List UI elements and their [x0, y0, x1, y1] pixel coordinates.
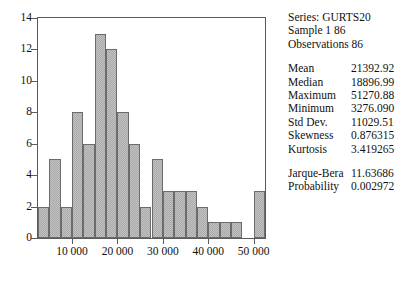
x-axis-tick-label: 30 000 [147, 245, 179, 257]
statistic-row: Mean21392.92 [288, 62, 420, 75]
y-axis-tick-mark [31, 175, 37, 176]
statistic-value: 3.419265 [351, 143, 394, 156]
x-axis-tick-mark [254, 239, 255, 244]
statistic-label: Kurtosis [288, 143, 327, 156]
x-axis-tick-label: 10 000 [56, 245, 88, 257]
statistics-header: Series: GURTS20Sample 1 86Observations 8… [288, 11, 420, 51]
statistic-value: 11.63686 [351, 167, 394, 180]
histogram-bar [61, 207, 72, 238]
y-axis-tick-mark [31, 49, 37, 50]
statistic-row: Minimum3276.090 [288, 102, 420, 115]
y-axis-tick-mark [31, 144, 37, 145]
histogram-bar [38, 207, 49, 238]
x-axis-tick-label: 40 000 [192, 245, 224, 257]
statistics-test-rows: Jarque-Bera11.63686Probability0.002972 [288, 167, 420, 194]
x-axis-tick-mark [117, 239, 118, 244]
histogram-bar [220, 222, 231, 238]
y-axis-tick-mark [31, 18, 37, 19]
histogram-bar [83, 144, 94, 238]
statistic-value: 11029.51 [351, 116, 394, 129]
statistic-value: 3276.090 [351, 102, 394, 115]
statistic-row: Std Dev.11029.51 [288, 116, 420, 129]
y-axis-tick-mark [31, 81, 37, 82]
histogram-bar [106, 49, 117, 238]
statistic-row: Median18896.99 [288, 76, 420, 89]
statistic-test-row: Probability0.002972 [288, 180, 420, 193]
histogram-bar [129, 144, 140, 238]
statistic-label: Maximum [288, 89, 336, 102]
stats-spacer-1 [288, 51, 420, 62]
statistic-value: 51270.88 [351, 89, 394, 102]
y-axis-tick-mark [31, 207, 37, 208]
histogram-bar [174, 191, 185, 238]
statistic-value: 18896.99 [351, 76, 394, 89]
statistic-value: 0.002972 [351, 180, 394, 193]
statistic-label: Std Dev. [288, 116, 328, 129]
histogram-bar [152, 159, 163, 238]
statistic-label: Jarque-Bera [288, 167, 344, 180]
histogram-bar [231, 222, 242, 238]
statistic-value: 21392.92 [351, 62, 394, 75]
statistic-row: Kurtosis3.419265 [288, 143, 420, 156]
histogram-bar [72, 112, 83, 238]
histogram-bar [95, 34, 106, 238]
histogram-bar [163, 191, 174, 238]
histogram-bar [49, 159, 60, 238]
histogram-bar [208, 222, 219, 238]
x-axis-tick-label: 50 000 [238, 245, 270, 257]
x-axis-tick-mark [72, 239, 73, 244]
histogram-bar [254, 191, 265, 238]
histogram-bars [38, 18, 265, 238]
x-axis: 10 00020 00030 00040 00050 000 [0, 245, 280, 265]
statistic-label: Skewness [288, 129, 333, 142]
histogram-panel: 02468101214 10 00020 00030 00040 00050 0… [0, 0, 280, 287]
stats-spacer-2 [288, 156, 420, 167]
histogram-bar [197, 207, 208, 238]
y-axis-tick-mark [31, 112, 37, 113]
statistic-label: Median [288, 76, 323, 89]
statistics-header-line: Observations 86 [288, 38, 420, 51]
histogram-bar [117, 112, 128, 238]
statistic-label: Minimum [288, 102, 334, 115]
statistics-rows: Mean21392.92Median18896.99Maximum51270.8… [288, 62, 420, 156]
statistics-panel: Series: GURTS20Sample 1 86Observations 8… [288, 11, 420, 194]
histogram-bar [186, 191, 197, 238]
statistics-header-line: Series: GURTS20 [288, 11, 420, 24]
statistics-header-line: Sample 1 86 [288, 24, 420, 37]
statistic-row: Maximum51270.88 [288, 89, 420, 102]
y-axis-tick-mark [31, 238, 37, 239]
statistic-label: Probability [288, 180, 339, 193]
x-axis-tick-mark [163, 239, 164, 244]
statistic-label: Mean [288, 62, 314, 75]
statistic-value: 0.876315 [351, 129, 394, 142]
x-axis-tick-label: 20 000 [102, 245, 134, 257]
histogram-statistics-figure: 02468101214 10 00020 00030 00040 00050 0… [0, 0, 420, 287]
statistic-row: Skewness0.876315 [288, 129, 420, 142]
statistic-test-row: Jarque-Bera11.63686 [288, 167, 420, 180]
histogram-bar [140, 207, 151, 238]
x-axis-tick-mark [208, 239, 209, 244]
